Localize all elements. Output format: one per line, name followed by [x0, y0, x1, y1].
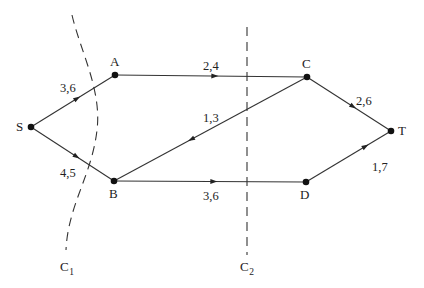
node-d — [303, 179, 310, 186]
edge-label-d-t: 1,7 — [372, 160, 388, 174]
node-label-a: A — [110, 54, 120, 69]
edge-label-s-a: 3,6 — [60, 81, 76, 95]
edge-b-d — [114, 181, 306, 182]
flow-network-diagram: C1C23,62,41,32,64,53,61,7SACTBD — [0, 0, 424, 288]
edges — [31, 74, 391, 184]
node-a — [112, 72, 119, 79]
node-t — [388, 128, 395, 135]
node-label-t: T — [398, 123, 406, 138]
edge-label-c-t: 2,6 — [356, 94, 372, 108]
node-b — [111, 178, 118, 185]
arrowhead-icon — [361, 144, 368, 150]
edge-label-a-c: 2,4 — [203, 59, 219, 73]
cut-c1-line — [66, 15, 98, 250]
arrowhead-icon — [73, 97, 80, 103]
arrowhead-icon — [211, 74, 218, 79]
edge-c-t — [307, 77, 391, 131]
edge-label-c-b: 1,3 — [203, 111, 219, 125]
cut-lines — [66, 15, 247, 255]
edge-label-b-d: 3,6 — [203, 189, 219, 203]
edge-label-s-b: 4,5 — [60, 166, 76, 180]
node-label-c: C — [302, 56, 311, 71]
node-label-b: B — [109, 186, 118, 201]
node-c — [304, 74, 311, 81]
node-label-d: D — [300, 187, 309, 202]
arrowhead-icon — [72, 153, 79, 159]
cut-c1-label: C1 — [60, 259, 74, 277]
arrowhead-icon — [210, 179, 217, 184]
node-s — [28, 124, 35, 131]
arrowhead-icon — [188, 136, 195, 141]
edge-c-b — [114, 77, 307, 181]
edge-d-t — [306, 131, 391, 182]
edge-a-c — [115, 75, 307, 77]
labels: C1C23,62,41,32,64,53,61,7SACTBD — [16, 54, 406, 277]
cut-c2-label: C2 — [240, 259, 254, 277]
node-label-s: S — [16, 119, 23, 134]
